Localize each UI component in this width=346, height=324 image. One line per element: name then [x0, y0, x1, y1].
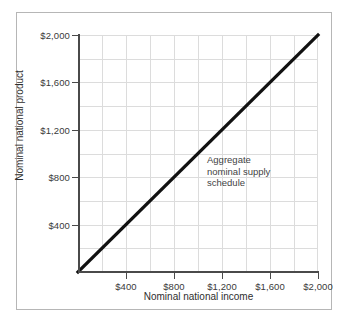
chart-figure: Aggregate nominal supply schedule $400 $…	[0, 0, 346, 324]
plot-area: Aggregate nominal supply schedule	[78, 35, 318, 272]
y-tick-label: $400	[8, 220, 70, 231]
y-axis-tick	[72, 177, 78, 178]
x-axis-tick	[174, 273, 175, 279]
y-axis-tick	[72, 35, 78, 36]
x-axis-tick	[318, 273, 319, 279]
series-annotation: Aggregate nominal supply schedule	[207, 154, 270, 189]
y-tick-label: $2,000	[8, 30, 70, 41]
y-axis-line	[78, 34, 80, 273]
x-axis-tick	[270, 273, 271, 279]
x-axis-line	[78, 271, 319, 273]
y-axis-tick	[72, 225, 78, 226]
y-axis-tick	[72, 82, 78, 83]
x-axis-tick	[222, 273, 223, 279]
x-axis-tick	[126, 273, 127, 279]
aggregate-nominal-supply-line	[78, 35, 318, 272]
x-axis-title: Nominal national income	[78, 291, 319, 302]
y-axis-title: Nominal national product	[14, 46, 25, 206]
y-axis-tick	[72, 130, 78, 131]
